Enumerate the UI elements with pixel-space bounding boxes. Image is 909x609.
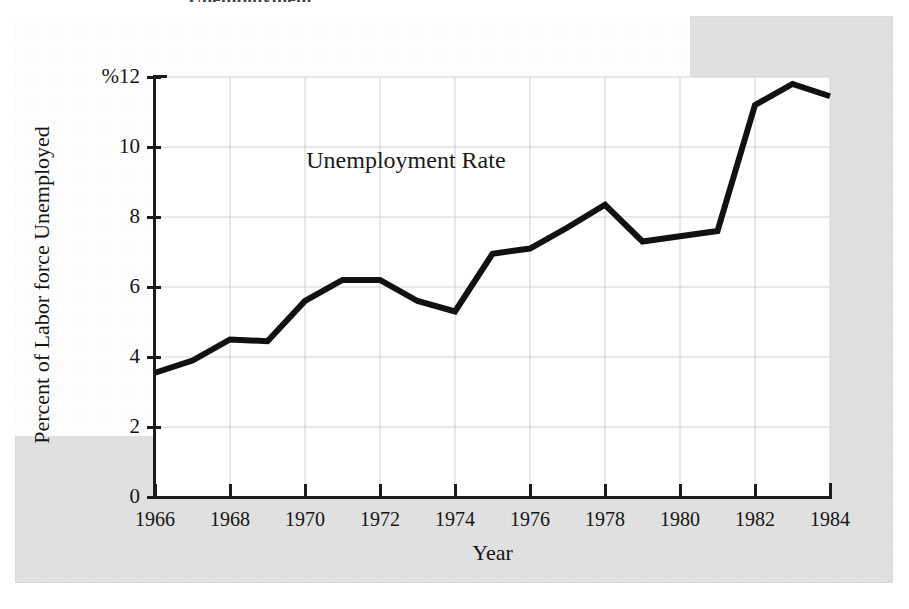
- y-axis-tick: [147, 216, 161, 219]
- plot-canvas: [155, 77, 830, 497]
- y-axis-tick-label: 8: [78, 206, 140, 227]
- x-axis-tick-label: 1972: [340, 508, 420, 530]
- x-axis-tick-label: 1978: [565, 508, 645, 530]
- x-axis-tick-label: 1970: [265, 508, 345, 530]
- y-axis-tick-label: 6: [78, 276, 140, 297]
- y-axis-tick-label: %12: [78, 66, 140, 87]
- x-axis-tick: [154, 484, 157, 497]
- x-axis-tick: [229, 484, 232, 497]
- y-axis-tick-label: 10: [78, 136, 140, 157]
- y-axis-tick: [147, 426, 161, 429]
- x-axis-label: Year: [155, 541, 830, 565]
- x-axis-tick: [679, 484, 682, 497]
- y-axis-tick: [147, 286, 161, 289]
- figure-title-cropped: Unemployment: [188, 0, 488, 2]
- x-axis-tick: [529, 484, 532, 497]
- series-unemployment-rate: [155, 77, 830, 497]
- x-axis-tick-label: 1982: [715, 508, 795, 530]
- x-axis-line: [153, 496, 832, 499]
- y-axis-tick: [147, 146, 161, 149]
- series-annotation-label: Unemployment Rate: [306, 147, 505, 173]
- x-axis-tick-label: 1980: [640, 508, 720, 530]
- y-axis-tick-label: 2: [78, 416, 140, 437]
- x-axis-tick: [754, 484, 757, 497]
- x-axis-tick-label: 1968: [190, 508, 270, 530]
- x-axis-tick-label: 1966: [115, 508, 195, 530]
- x-axis-tick: [829, 484, 832, 497]
- y-axis-tick-label: 0: [78, 486, 140, 507]
- x-axis-tick: [304, 484, 307, 497]
- x-axis-tick-label: 1974: [415, 508, 495, 530]
- x-axis-tick: [454, 484, 457, 497]
- y-axis-tick: [147, 356, 161, 359]
- x-axis-tick: [379, 484, 382, 497]
- y-axis-tick: [147, 76, 161, 79]
- x-axis-tick-label: 1976: [490, 508, 570, 530]
- x-axis-tick: [604, 484, 607, 497]
- y-axis-tick-label: 4: [78, 346, 140, 367]
- y-axis-label: Percent of Labor force Unemployed: [30, 75, 54, 495]
- x-axis-tick-label: 1984: [790, 508, 870, 530]
